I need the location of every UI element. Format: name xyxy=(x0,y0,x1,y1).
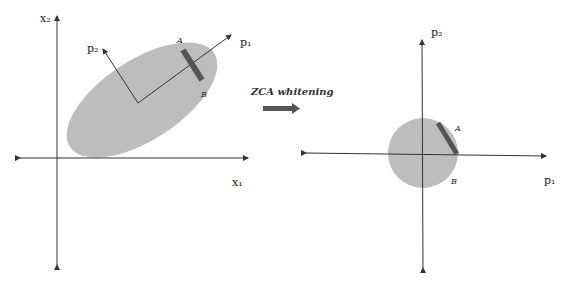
left-panel xyxy=(20,16,248,265)
point-a-label: A xyxy=(176,36,183,45)
p2-label: p₂ xyxy=(87,42,98,55)
x1-axis-label: x₁ xyxy=(232,176,243,189)
x2-axis-label: x₂ xyxy=(40,12,51,25)
point-a-label-right: A xyxy=(454,124,461,133)
p2-axis-label-right: p₂ xyxy=(431,26,442,39)
p2-axis-right xyxy=(422,40,423,268)
zca-whitening-diagram: x₂ x₁ p₁ p₂ A B ZCA whitening p₂ p₁ A B xyxy=(0,0,571,282)
right-panel xyxy=(306,40,546,268)
right-arrow-icon xyxy=(263,103,300,114)
transform-label: ZCA whitening xyxy=(250,86,334,97)
point-b-label: B xyxy=(200,90,207,99)
point-b-label-right: B xyxy=(450,177,457,186)
p1-label: p₁ xyxy=(240,36,251,49)
p1-axis-label-right: p₁ xyxy=(544,174,555,187)
